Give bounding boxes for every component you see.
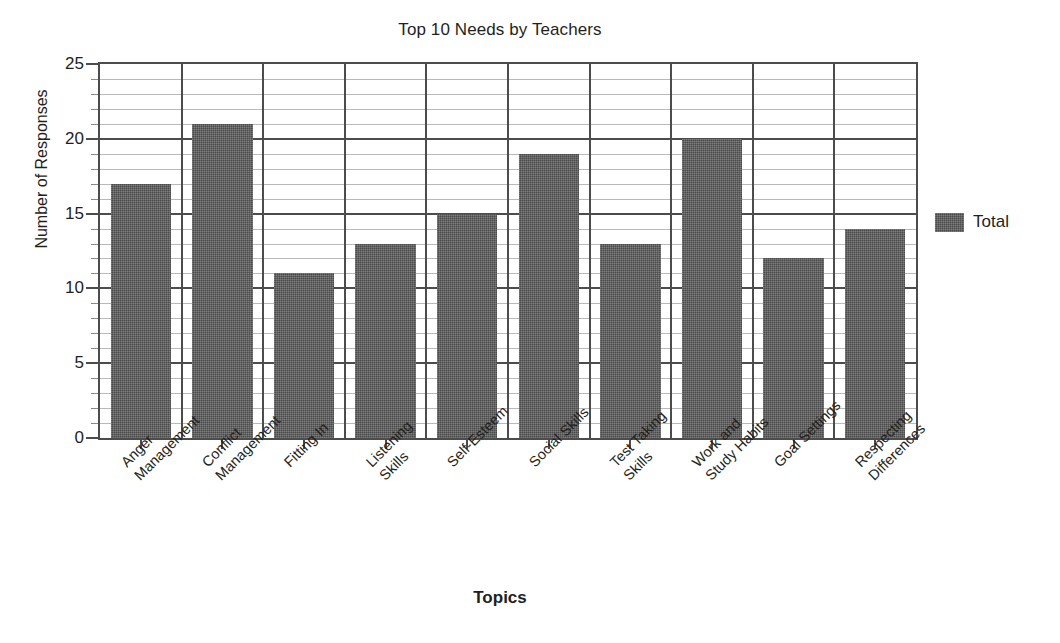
y-tick-major [86, 287, 98, 289]
y-tick-minor [91, 303, 98, 304]
y-axis-title: Number of Responses [33, 59, 51, 279]
bar-0[interactable] [111, 184, 171, 438]
y-tick-label: 5 [36, 354, 84, 371]
y-tick-minor [91, 79, 98, 80]
y-tick-minor [91, 154, 98, 155]
y-tick-minor [91, 169, 98, 170]
gridline-vertical [425, 64, 427, 438]
bar-8[interactable] [763, 258, 823, 438]
bar-5[interactable] [519, 154, 579, 438]
gridline-vertical [589, 64, 591, 438]
y-tick-minor [91, 333, 98, 334]
bar-6[interactable] [600, 244, 660, 438]
gridline-vertical [181, 64, 183, 438]
x-axis-title: Topics [0, 588, 1000, 608]
gridline-vertical [833, 64, 835, 438]
y-tick-label: 25 [36, 55, 84, 72]
y-tick-minor [91, 229, 98, 230]
bar-2[interactable] [274, 273, 334, 438]
y-tick-minor [91, 348, 98, 349]
bar-chart: Top 10 Needs by Teachers Number of Respo… [0, 0, 1060, 643]
y-tick-label: 20 [36, 130, 84, 147]
y-tick-minor [91, 423, 98, 424]
plot-inner [100, 64, 916, 438]
y-tick-minor [91, 199, 98, 200]
plot-area [98, 62, 918, 440]
bar-7[interactable] [682, 139, 742, 438]
y-tick-minor [91, 273, 98, 274]
y-tick-minor [91, 393, 98, 394]
chart-legend: Total [935, 212, 1009, 232]
y-tick-minor [91, 378, 98, 379]
y-tick-minor [91, 408, 98, 409]
y-tick-minor [91, 184, 98, 185]
gridline-vertical [262, 64, 264, 438]
y-tick-minor [91, 244, 98, 245]
legend-label-total: Total [973, 212, 1009, 232]
y-tick-major [86, 138, 98, 140]
gridline-vertical [344, 64, 346, 438]
bar-4[interactable] [437, 214, 497, 438]
y-tick-label: 10 [36, 279, 84, 296]
y-tick-minor [91, 124, 98, 125]
gridline-vertical [670, 64, 672, 438]
y-tick-major [86, 362, 98, 364]
y-tick-minor [91, 258, 98, 259]
y-tick-label: 0 [36, 429, 84, 446]
gridline-vertical [507, 64, 509, 438]
chart-title: Top 10 Needs by Teachers [0, 20, 1000, 40]
y-tick-minor [91, 94, 98, 95]
y-tick-major [86, 63, 98, 65]
bar-1[interactable] [192, 124, 252, 438]
y-tick-major [86, 213, 98, 215]
bar-3[interactable] [355, 244, 415, 438]
y-tick-minor [91, 318, 98, 319]
bar-9[interactable] [845, 229, 905, 438]
y-tick-label: 15 [36, 205, 84, 222]
gridline-vertical [752, 64, 754, 438]
y-tick-major [86, 437, 98, 439]
y-tick-minor [91, 109, 98, 110]
legend-swatch-total [935, 213, 964, 232]
